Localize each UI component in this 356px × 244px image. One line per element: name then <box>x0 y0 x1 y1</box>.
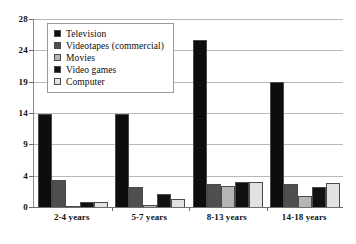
bar <box>129 187 143 207</box>
y-tick-label: 9 <box>23 140 28 149</box>
y-tick-label: 28 <box>19 15 28 24</box>
legend: TelevisionVideotapes (commercial)MoviesV… <box>47 23 174 93</box>
legend-item: Computer <box>54 76 164 87</box>
x-tick-mark <box>112 207 113 211</box>
legend-label: Computer <box>66 77 105 87</box>
y-tick-label: 19 <box>19 78 28 87</box>
legend-swatch-icon <box>54 30 61 37</box>
legend-label: Television <box>66 29 106 39</box>
x-tick-label: 8-13 years <box>188 212 266 222</box>
bar <box>52 180 66 207</box>
y-tick-label: 0 <box>23 203 28 212</box>
legend-item: Video games <box>54 64 164 75</box>
legend-label: Video games <box>66 65 116 75</box>
legend-swatch-icon <box>54 42 61 49</box>
bar <box>66 206 80 207</box>
bar-group <box>267 20 345 207</box>
bar-group <box>189 20 267 207</box>
bar <box>193 40 207 207</box>
bar <box>38 114 52 207</box>
bar <box>298 196 312 207</box>
bar <box>207 184 221 208</box>
y-axis: 04914192428 <box>0 20 28 208</box>
x-tick-mark <box>267 207 268 211</box>
legend-label: Videotapes (commercial) <box>66 41 164 51</box>
legend-label: Movies <box>66 53 95 63</box>
bar <box>171 199 185 207</box>
x-tick-label: 5-7 years <box>111 212 189 222</box>
bar <box>312 187 326 207</box>
bar <box>80 202 94 207</box>
x-tick-mark <box>189 207 190 211</box>
bar <box>94 202 108 207</box>
bar <box>143 205 157 207</box>
x-tick-label: 14-18 years <box>266 212 344 222</box>
bar <box>221 186 235 207</box>
bar <box>249 182 263 207</box>
legend-swatch-icon <box>54 78 61 85</box>
legend-item: Movies <box>54 52 164 63</box>
legend-item: Television <box>54 28 164 39</box>
legend-swatch-icon <box>54 66 61 73</box>
bar <box>115 114 129 207</box>
y-tick-label: 24 <box>19 46 28 55</box>
bar <box>235 182 249 207</box>
x-tick-label: 2-4 years <box>33 212 111 222</box>
bar <box>270 82 284 207</box>
y-tick-mark <box>29 207 34 208</box>
y-tick-label: 4 <box>23 172 28 181</box>
legend-item: Videotapes (commercial) <box>54 40 164 51</box>
bar <box>284 184 298 208</box>
bar-chart: 04914192428 2-4 years5-7 years8-13 years… <box>0 0 356 244</box>
bar <box>326 183 340 207</box>
bar <box>157 194 171 207</box>
x-axis: 2-4 years5-7 years8-13 years14-18 years <box>33 212 343 232</box>
legend-swatch-icon <box>54 54 61 61</box>
y-tick-label: 14 <box>19 109 28 118</box>
